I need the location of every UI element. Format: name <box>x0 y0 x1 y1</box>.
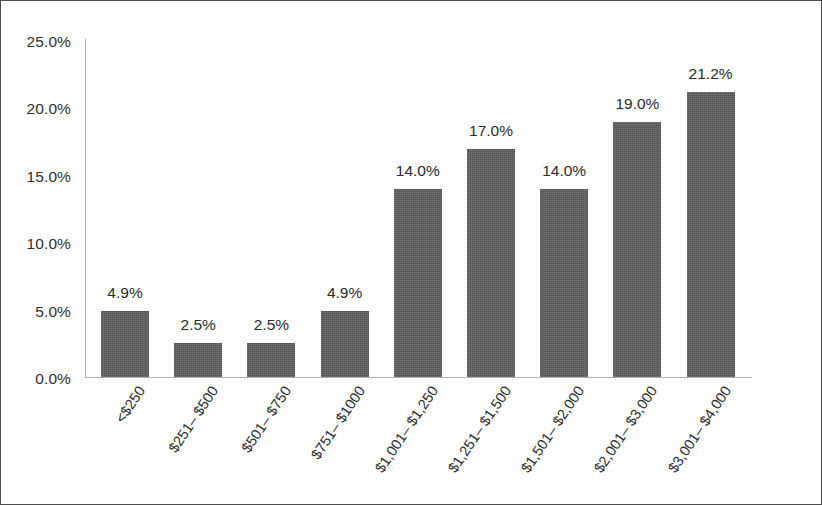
x-axis-tick-label-text: $1,251– $1,500 <box>445 383 515 476</box>
bars-layer: 4.9%<$2502.5%$251– $5002.5%$501– $7504.9… <box>1 1 822 505</box>
bar <box>467 149 515 377</box>
x-axis-tick-label-text: $2,001– $3,000 <box>591 383 661 476</box>
x-axis-tick-label-text: $1,001– $1,250 <box>371 383 441 476</box>
bar <box>613 122 661 377</box>
bar-value-label: 4.9% <box>80 284 170 302</box>
bar <box>321 311 369 377</box>
bar-value-label: 14.0% <box>373 162 463 180</box>
bar-value-label: 21.2% <box>666 65 756 83</box>
chart-frame: 25.0% 20.0% 15.0% 10.0% 5.0% 0.0% 4.9%<$… <box>0 0 822 505</box>
bar-value-label: 4.9% <box>300 284 390 302</box>
bar <box>101 311 149 377</box>
x-axis-tick-label-text: <$250 <box>112 383 148 426</box>
bar-value-label: 19.0% <box>592 95 682 113</box>
x-axis-tick-label-text: $751– $1000 <box>307 383 368 462</box>
plot-area: 25.0% 20.0% 15.0% 10.0% 5.0% 0.0% 4.9%<$… <box>1 1 822 505</box>
bar <box>394 189 442 377</box>
x-axis-tick-label-text: $501– $750 <box>239 383 295 455</box>
bar <box>687 92 735 377</box>
bar-value-label: 14.0% <box>519 162 609 180</box>
x-axis-tick-label-text: $251– $500 <box>165 383 221 455</box>
x-axis-tick-label-text: $1,501– $2,000 <box>518 383 588 476</box>
bar-value-label: 2.5% <box>226 316 316 334</box>
x-axis-tick-label-text: $3,001– $4,000 <box>664 383 734 476</box>
bar <box>540 189 588 377</box>
bar-value-label: 17.0% <box>446 122 536 140</box>
